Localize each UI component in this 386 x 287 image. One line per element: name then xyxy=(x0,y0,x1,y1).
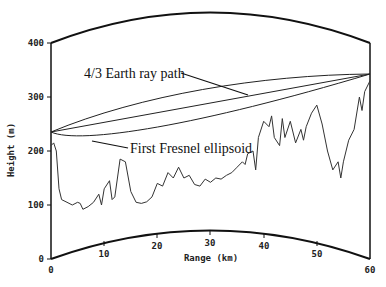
x-axis-title: Range (km) xyxy=(184,253,238,263)
y-axis-title: Height (m) xyxy=(6,123,16,177)
y-tick-label-200: 200 xyxy=(28,146,44,156)
x-tick-label-30: 30 xyxy=(205,238,216,248)
terrain-profile-chart: 400 300 200 100 0 0 10 20 30 40 50 60 Ra… xyxy=(0,0,386,287)
y-tick-label-300: 300 xyxy=(28,92,44,102)
y-tick-label-400: 400 xyxy=(28,38,44,48)
x-tick-label-40: 40 xyxy=(259,241,270,251)
x-tick-label-10: 10 xyxy=(99,249,110,259)
x-tick-label-50: 50 xyxy=(312,249,323,259)
fresnel-annotation-pointer xyxy=(92,141,128,148)
y-tick-label-0: 0 xyxy=(39,254,44,264)
earth-curvature-top xyxy=(51,13,370,44)
y-tick-label-100: 100 xyxy=(28,200,44,210)
ray-path-annotation: 4/3 Earth ray path xyxy=(84,66,185,81)
x-tick-label-20: 20 xyxy=(152,241,163,251)
x-tick-label-0: 0 xyxy=(48,265,53,275)
x-tick-label-60: 60 xyxy=(365,265,376,275)
fresnel-annotation: First Fresnel ellipsoid xyxy=(130,141,252,156)
